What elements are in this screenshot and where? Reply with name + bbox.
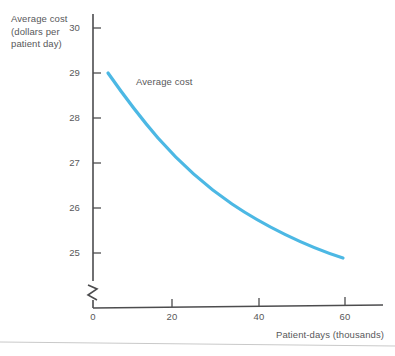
axis-break-icon [88,285,97,300]
page-edge-artifact [0,341,395,347]
x-axis-line [93,305,383,308]
average-cost-chart: Average cost (dollars per patient day) 3… [0,0,395,356]
plot-area [0,0,395,356]
x-axis-title: Patient-days (thousands) [276,329,384,342]
series-annotation-average-cost: Average cost [136,76,192,87]
average-cost-curve [108,73,343,258]
